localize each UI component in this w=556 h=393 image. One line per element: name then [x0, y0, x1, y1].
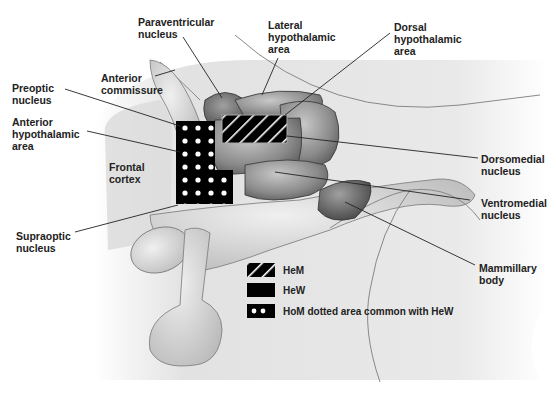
legend-item-hom: HoM dotted area common with HeW — [247, 304, 454, 318]
hypothalamus-diagram: Paraventricular nucleus Lateral hypothal… — [0, 0, 556, 393]
label-lateral-hypothalamic-area: Lateral hypothalamic area — [268, 19, 336, 55]
label-supraoptic-nucleus: Supraoptic nucleus — [16, 230, 71, 254]
legend-item-hem: HeM — [247, 263, 304, 277]
label-mammillary-body: Mammillary body — [479, 262, 537, 286]
label-dorsal-hypothalamic-area: Dorsal hypothalamic area — [394, 21, 462, 57]
hatched-region-hem — [222, 115, 287, 143]
legend-item-hew: HeW — [247, 283, 305, 297]
label-ventromedial-nucleus: Ventromedial nucleus — [481, 197, 547, 221]
label-anterior-commissure: Anterior commissure — [101, 72, 163, 96]
hatched-swatch-icon — [247, 263, 275, 277]
label-dorsomedial-nucleus: Dorsomedial nucleus — [481, 153, 545, 177]
anatomy-illustration — [0, 0, 556, 393]
label-anterior-hypothalamic-area: Anterior hypothalamic area — [12, 116, 80, 152]
label-frontal-cortex: Frontal cortex — [109, 161, 145, 185]
label-preoptic-nucleus: Preoptic nucleus — [12, 82, 54, 106]
label-paraventricular-nucleus: Paraventricular nucleus — [138, 16, 214, 40]
solid-swatch-icon — [247, 283, 275, 297]
dotted-swatch-icon — [247, 304, 275, 318]
